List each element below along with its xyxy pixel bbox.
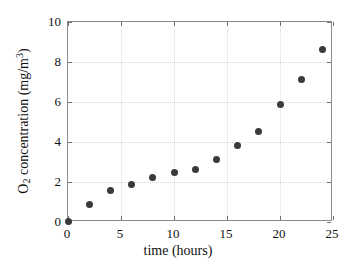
y-axis-label-container: O2 concentration (mg/m3) (10, 0, 36, 266)
x-axis-label: time (hours) (0, 243, 356, 259)
data-point (277, 101, 284, 108)
gridline-horizontal (68, 102, 331, 103)
tick-mark-x (333, 216, 334, 220)
chart-figure: O2 concentration (mg/m3) 0510152025 0246… (0, 0, 356, 266)
y-tick-label: 10 (37, 15, 61, 28)
data-point (107, 187, 114, 194)
tick-mark-y (68, 102, 72, 103)
x-tick-label: 10 (167, 227, 180, 240)
tick-mark-y-right (327, 142, 331, 143)
data-point (65, 218, 72, 225)
tick-mark-x-top (121, 22, 122, 26)
data-point (192, 166, 199, 173)
gridline-vertical (280, 22, 281, 220)
gridline-vertical (227, 22, 228, 220)
y-tick-label: 0 (37, 215, 61, 228)
tick-mark-x (280, 216, 281, 220)
gridline-horizontal (68, 142, 331, 143)
y-tick-label: 6 (37, 95, 61, 108)
tick-mark-x (174, 216, 175, 220)
tick-mark-y (68, 142, 72, 143)
tick-mark-y-right (327, 222, 331, 223)
tick-mark-x-top (174, 22, 175, 26)
data-point (128, 181, 135, 188)
tick-mark-y-right (327, 102, 331, 103)
tick-mark-y-right (327, 62, 331, 63)
data-point (86, 201, 93, 208)
y-tick-label: 8 (37, 55, 61, 68)
x-tick-label: 0 (64, 227, 71, 240)
y-tick-label: 4 (37, 135, 61, 148)
tick-mark-x-top (227, 22, 228, 26)
data-point (255, 128, 262, 135)
tick-mark-x-top (333, 22, 334, 26)
gridline-vertical (121, 22, 122, 220)
y-axis-label: O2 concentration (mg/m3) (14, 48, 32, 193)
data-point (213, 156, 220, 163)
tick-mark-x (121, 216, 122, 220)
gridline-horizontal (68, 182, 331, 183)
x-tick-label: 15 (220, 227, 233, 240)
gridline-vertical (174, 22, 175, 220)
x-tick-label: 20 (273, 227, 286, 240)
tick-mark-y (68, 182, 72, 183)
data-point (149, 174, 156, 181)
tick-mark-x-top (280, 22, 281, 26)
tick-mark-y-right (327, 182, 331, 183)
data-point (171, 169, 178, 176)
tick-mark-y-right (327, 22, 331, 23)
tick-mark-y (68, 62, 72, 63)
x-tick-label: 25 (326, 227, 339, 240)
gridline-horizontal (68, 62, 331, 63)
plot-area (67, 21, 332, 221)
data-point (319, 46, 326, 53)
x-tick-label: 5 (117, 227, 124, 240)
tick-mark-x (227, 216, 228, 220)
data-point (298, 76, 305, 83)
y-tick-label: 2 (37, 175, 61, 188)
data-point (234, 142, 241, 149)
tick-mark-y (68, 22, 72, 23)
